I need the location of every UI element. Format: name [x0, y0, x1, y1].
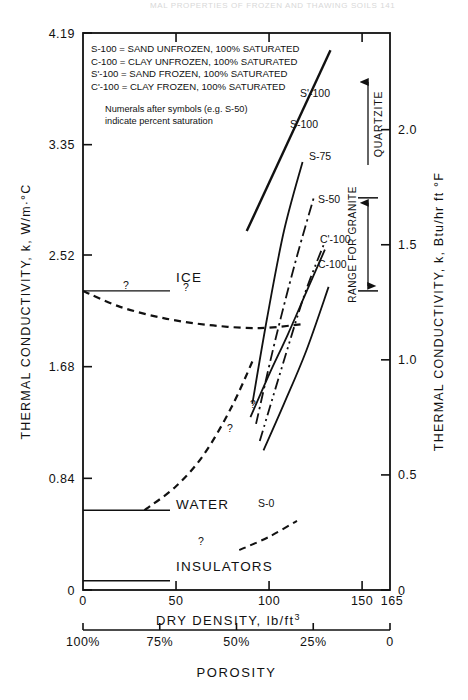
- series-c-100: [263, 287, 328, 451]
- series-s-0: [239, 521, 297, 550]
- series-s-75: [256, 198, 314, 424]
- thermal-conductivity-chart: 00.841.682.523.354.1900.51.01.52.0050100…: [0, 0, 468, 700]
- uncertainty-marker: ?: [123, 279, 129, 291]
- uncertainty-marker: ?: [227, 422, 233, 434]
- porosity-tick-label: 25%: [300, 635, 327, 649]
- range-granite-label: RANGE FOR GRANITE: [347, 186, 358, 303]
- porosity-tick-label: 100%: [66, 635, 100, 649]
- series-c-100: [250, 250, 324, 417]
- y-tick-label: 3.35: [49, 138, 75, 152]
- legend-note: indicate percent saturation: [105, 116, 213, 126]
- uncertainty-marker: ?: [183, 281, 189, 293]
- porosity-tick-label: 0: [386, 635, 393, 649]
- y2-tick-label: 2.0: [398, 123, 417, 137]
- y2-tick-label: 1.0: [398, 353, 417, 367]
- y-tick-label: 2.52: [49, 249, 75, 263]
- legend-note: Numerals after symbols (e.g. S-50): [105, 104, 247, 114]
- figure-root: MAL PROPERTIES OF FROZEN AND THAWING SOI…: [0, 0, 468, 700]
- y-tick-label: 0: [68, 584, 75, 598]
- ice-label: ICE: [176, 270, 202, 285]
- series-ice-curve: [83, 291, 303, 328]
- y2-axis-title: THERMAL CONDUCTIVITY, k, Btu/hr ft °F: [432, 172, 446, 451]
- y-tick-label: 1.68: [49, 360, 75, 374]
- porosity-tick-label: 50%: [223, 635, 250, 649]
- x-tick-label: 0: [79, 594, 86, 608]
- water-label: WATER: [176, 497, 229, 512]
- series-water-curve: [144, 357, 254, 510]
- curve-label: C-100: [318, 258, 347, 270]
- curve-label: S-0: [258, 497, 275, 509]
- y-axis-title: THERMAL CONDUCTIVITY, k, W/m·°C: [19, 183, 33, 439]
- uncertainty-marker: ?: [250, 398, 256, 410]
- y2-tick-label: 0.5: [398, 468, 417, 482]
- running-header: MAL PROPERTIES OF FROZEN AND THAWING SOI…: [150, 1, 460, 12]
- quartzite-label: QUARTZITE: [372, 91, 384, 158]
- porosity-tick-label: 75%: [146, 635, 173, 649]
- x-end-label: 165: [381, 594, 403, 608]
- x-tick-label: 100: [258, 594, 280, 608]
- series-s-100: [252, 162, 302, 404]
- porosity-axis-title: POROSITY: [197, 665, 277, 680]
- curve-label: S-75: [309, 150, 331, 162]
- uncertainty-marker: ?: [198, 535, 204, 547]
- legend-entry: C'-100 = CLAY FROZEN, 100% SATURATED: [91, 81, 285, 92]
- x-tick-label: 50: [169, 594, 184, 608]
- y2-tick-label: 1.5: [398, 238, 417, 252]
- x-axis-title: DRY DENSITY, lb/ft3: [156, 612, 301, 628]
- insulators-label: INSULATORS: [176, 559, 273, 574]
- x-tick-label: 150: [351, 594, 373, 608]
- legend-entry: S-100 = SAND UNFROZEN, 100% SATURATED: [91, 43, 299, 54]
- curve-label: S-100: [290, 118, 318, 130]
- curve-label: S-50: [318, 193, 340, 205]
- curve-label: S'-100: [300, 87, 330, 99]
- legend-entry: C-100 = CLAY UNFROZEN, 100% SATURATED: [91, 56, 297, 67]
- legend-entry: S'-100 = SAND FROZEN, 100% SATURATED: [91, 68, 287, 79]
- y-tick-label: 4.19: [49, 27, 75, 41]
- y-tick-label: 0.84: [49, 472, 75, 486]
